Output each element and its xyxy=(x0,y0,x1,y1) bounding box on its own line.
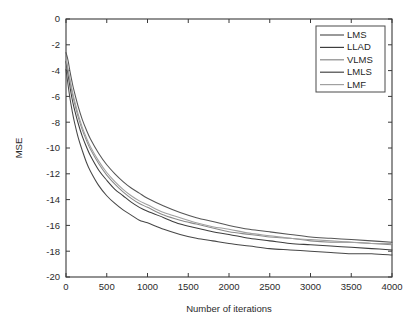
series-line-lmls xyxy=(66,69,392,255)
x-tick-label: 500 xyxy=(99,281,115,292)
y-tick-label: -20 xyxy=(46,271,60,282)
y-tick-label: -12 xyxy=(46,168,60,179)
x-axis-title: Number of iterations xyxy=(186,303,272,314)
x-tick-label: 3500 xyxy=(341,281,362,292)
y-tick-label: -4 xyxy=(52,65,60,76)
legend-label-lms: LMS xyxy=(347,29,367,40)
legend-label-lmf: LMF xyxy=(347,79,366,90)
chart-figure: 0-2-4-6-8-10-12-14-16-18-20 050010001500… xyxy=(0,0,418,330)
x-tick-label: 1500 xyxy=(178,281,199,292)
x-tick-label: 3000 xyxy=(300,281,321,292)
mse-convergence-chart: 0-2-4-6-8-10-12-14-16-18-20 050010001500… xyxy=(0,0,418,330)
y-tick-label: 0 xyxy=(55,13,60,24)
y-tick-label: -2 xyxy=(52,39,60,50)
y-tick-label: -14 xyxy=(46,194,60,205)
y-tick-label: -16 xyxy=(46,220,60,231)
y-tick-label: -6 xyxy=(52,91,60,102)
y-axis-title: MSE xyxy=(13,138,24,159)
legend-label-llad: LLAD xyxy=(347,41,371,52)
x-tick-label: 1000 xyxy=(137,281,158,292)
x-tick-label: 4000 xyxy=(381,281,402,292)
x-tick-label: 2500 xyxy=(259,281,280,292)
y-tick-label: -10 xyxy=(46,142,60,153)
x-tick-label: 2000 xyxy=(218,281,239,292)
y-tick-label: -18 xyxy=(46,246,60,257)
chart-legend[interactable]: LMSLLADVLMSLMLSLMF xyxy=(316,26,385,92)
legend-label-vlms: VLMS xyxy=(347,54,373,65)
x-tick-label: 0 xyxy=(63,281,68,292)
y-tick-label: -8 xyxy=(52,117,60,128)
legend-label-lmls: LMLS xyxy=(347,66,372,77)
